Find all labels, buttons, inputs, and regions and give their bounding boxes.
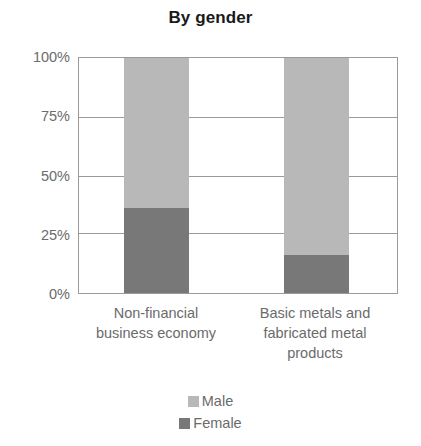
y-axis: 100% 75% 50% 25% 0% [0, 57, 72, 294]
y-tick-label-25: 25% [0, 227, 70, 243]
y-tick-label-75: 75% [0, 108, 70, 124]
category-label-line: Non-financial [73, 303, 239, 323]
legend-label: Male [202, 390, 233, 412]
bar-segment-female[interactable] [124, 208, 189, 293]
y-tick-label-0: 0% [0, 286, 70, 302]
bar-segment-male[interactable] [284, 58, 349, 255]
bar-group-basic-metals-and-fabricated-metal-products[interactable] [284, 58, 349, 293]
bar-group-non-financial-business-economy[interactable] [124, 58, 189, 293]
plot-area [78, 57, 398, 294]
category-label-line: products [232, 343, 398, 363]
bar-segment-male[interactable] [124, 58, 189, 208]
category-label-line: business economy [73, 323, 239, 343]
chart-title: By gender [0, 8, 421, 28]
y-tick-label-100: 100% [0, 49, 70, 65]
legend-swatch-icon [179, 418, 190, 429]
category-label-line: Basic metals and [232, 303, 398, 323]
bar-segment-female[interactable] [284, 255, 349, 293]
legend-item-male[interactable]: Male [188, 390, 233, 412]
x-axis-category-label: Non-financial business economy [73, 303, 239, 343]
x-axis-category-label: Basic metals and fabricated metal produc… [232, 303, 398, 363]
y-tick-label-50: 50% [0, 168, 70, 184]
legend-label: Female [193, 412, 241, 434]
chart-container: By gender 100% 75% 50% 25% 0% Non-financ… [0, 0, 421, 446]
category-label-line: fabricated metal [232, 323, 398, 343]
chart-legend: Male Female [0, 390, 421, 434]
legend-swatch-icon [188, 396, 199, 407]
legend-item-female[interactable]: Female [179, 412, 241, 434]
